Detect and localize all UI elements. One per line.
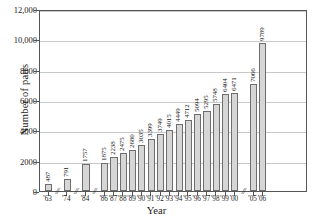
x-axis-tick-label: '93	[165, 195, 173, 203]
bar-chart-figure: Number of pairs Year 0200040006000800010…	[0, 0, 313, 219]
bar-value-label: 791	[62, 167, 70, 177]
x-axis-tick-label: '05	[248, 195, 256, 203]
bar-value-label: 3035	[137, 129, 145, 143]
bar	[64, 179, 71, 191]
bar-value-label: 5094	[193, 98, 201, 112]
bar-value-label: 1875	[100, 147, 108, 161]
x-axis-tick-label: '94	[174, 195, 182, 203]
bar-value-label: 7066	[249, 68, 257, 82]
bar-value-label: 6471	[230, 77, 238, 91]
bar-value-label: 3749	[156, 119, 164, 133]
y-axis-tick-label: 6000	[0, 96, 37, 106]
x-axis-tick-label: '92	[155, 195, 163, 203]
bar	[250, 84, 257, 191]
x-axis-tick-label: '63	[43, 195, 51, 203]
bar	[148, 139, 155, 191]
axis-break-mark: //	[93, 186, 96, 196]
bar-value-label: 6404	[221, 78, 229, 92]
y-axis-tick-label: 4000	[0, 126, 37, 136]
bar	[110, 157, 117, 191]
bar	[176, 124, 183, 191]
bar	[231, 93, 238, 191]
bar	[120, 153, 127, 191]
plot-area: 4877911757187522382475268030353399374940…	[39, 10, 307, 192]
bar-value-label: 2475	[118, 138, 126, 152]
x-axis-tick-label: '87	[109, 195, 117, 203]
axis-break-mark: //	[55, 186, 58, 196]
bar-value-label: 9789	[258, 27, 266, 41]
bar	[213, 104, 220, 191]
bar-value-label: 4712	[183, 104, 191, 118]
y-axis-tick-label: 2000	[0, 157, 37, 167]
x-axis-title: Year	[0, 205, 313, 216]
x-axis-tick-label: '90	[137, 195, 145, 203]
y-axis-tick-label: 8000	[0, 66, 37, 76]
x-axis-tick-label: '98	[211, 195, 219, 203]
bar-value-label: 487	[44, 171, 52, 181]
x-axis-tick-label: '97	[202, 195, 210, 203]
bar	[82, 164, 89, 191]
x-axis-tick-label: '89	[127, 195, 135, 203]
bar	[129, 150, 136, 191]
bar	[157, 134, 164, 191]
x-axis-tick-label: '84	[81, 195, 89, 203]
x-axis-tick-label: '00	[230, 195, 238, 203]
x-axis-tick-label: '99	[220, 195, 228, 203]
bar	[194, 114, 201, 191]
bar	[45, 184, 52, 191]
bar	[259, 43, 266, 191]
y-axis-tick-label: 12,000	[0, 5, 37, 15]
bar-value-label: 2680	[128, 135, 136, 149]
gridline	[40, 11, 306, 12]
x-axis-tick-label: '74	[62, 195, 70, 203]
x-axis-tick-label: '96	[192, 195, 200, 203]
bar	[185, 120, 192, 191]
bar-value-label: 5748	[211, 88, 219, 102]
bar-value-label: 1757	[81, 149, 89, 163]
y-axis-tick-label: 10,000	[0, 35, 37, 45]
bar-value-label: 4449	[174, 108, 182, 122]
x-axis-tick-label: '86	[99, 195, 107, 203]
axis-break-mark: //	[242, 186, 245, 196]
x-axis-tick-label: '06	[258, 195, 266, 203]
x-axis-tick-label: '91	[146, 195, 154, 203]
bar	[101, 163, 108, 191]
x-axis-tick-label: '95	[183, 195, 191, 203]
bar	[203, 111, 210, 191]
bar-value-label: 4015	[165, 115, 173, 129]
bar	[222, 94, 229, 191]
bar	[166, 130, 173, 191]
bar-value-label: 3399	[146, 124, 154, 138]
bar-value-label: 5295	[202, 95, 210, 109]
bar	[138, 145, 145, 191]
bar-value-label: 2238	[109, 141, 117, 155]
axis-break-mark: //	[74, 186, 77, 196]
y-axis-tick-mark	[34, 192, 39, 193]
x-axis-tick-label: '88	[118, 195, 126, 203]
y-axis-tick-label: 0	[0, 187, 37, 197]
